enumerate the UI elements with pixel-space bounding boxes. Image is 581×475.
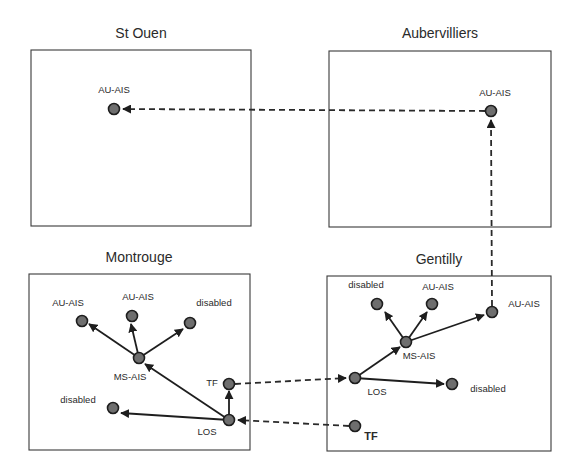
edge-mo-los-ms-ais — [145, 364, 229, 420]
network-diagram: St Ouen AU-AIS Aubervilliers AU-AIS Mont… — [0, 0, 581, 475]
edge-ge-ms-au-ais-2 — [406, 315, 484, 342]
node-ge-ms-ais[interactable] — [401, 337, 412, 348]
edge-ge-au-ais-to-au-au-ais — [491, 120, 492, 306]
edge-ge-los-ms-ais — [355, 347, 400, 378]
inter-site-links — [123, 109, 492, 426]
node-mo-disabled-1[interactable] — [185, 318, 196, 329]
site-box-st-ouen — [31, 50, 251, 226]
site-title-montrouge: Montrouge — [106, 249, 173, 265]
node-label-mo-ms-ais: MS-AIS — [114, 371, 147, 382]
node-label-ge-disabled-1: disabled — [348, 279, 383, 290]
node-ge-au-ais-2[interactable] — [487, 307, 498, 318]
node-so-au-ais[interactable] — [109, 104, 120, 115]
node-label-so-au-ais: AU-AIS — [98, 84, 130, 95]
node-au-au-ais[interactable] — [486, 106, 497, 117]
edge-au-au-ais-to-so-au-ais — [123, 109, 485, 111]
edge-mo-ms-disabled — [139, 329, 183, 358]
site-title-st-ouen: St Ouen — [115, 25, 166, 41]
node-ge-tf[interactable] — [350, 421, 361, 432]
node-mo-au-ais-2[interactable] — [127, 311, 138, 322]
node-ge-disabled-2[interactable] — [447, 379, 458, 390]
node-label-ge-los: LOS — [367, 386, 386, 397]
edge-ge-tf-to-mo-los — [238, 420, 349, 426]
site-title-gentilly: Gentilly — [416, 251, 463, 267]
site-st-ouen: St Ouen AU-AIS — [31, 25, 251, 226]
node-ge-los[interactable] — [350, 373, 361, 384]
node-label-au-au-ais: AU-AIS — [479, 87, 511, 98]
node-label-mo-au-ais-1: AU-AIS — [52, 297, 84, 308]
node-label-mo-tf: TF — [206, 377, 218, 388]
node-label-ge-au-ais-1: AU-AIS — [422, 281, 454, 292]
edge-ge-los-disabled — [355, 378, 444, 384]
node-label-mo-disabled-1: disabled — [196, 297, 231, 308]
edge-mo-los-disabled — [121, 413, 229, 420]
node-mo-ms-ais[interactable] — [134, 353, 145, 364]
edge-mo-tf-to-ge-los — [235, 378, 346, 384]
site-title-aubervilliers: Aubervilliers — [402, 25, 478, 41]
node-mo-au-ais-1[interactable] — [77, 316, 88, 327]
node-mo-tf[interactable] — [224, 379, 235, 390]
node-mo-los[interactable] — [224, 415, 235, 426]
site-aubervilliers: Aubervilliers AU-AIS — [329, 25, 551, 227]
node-label-ge-ms-ais: MS-AIS — [403, 350, 436, 361]
site-montrouge: Montrouge AU-AIS AU-AIS disabled MS-AIS … — [29, 249, 250, 450]
node-label-mo-au-ais-2: AU-AIS — [122, 291, 154, 302]
node-label-mo-disabled-2: disabled — [60, 394, 95, 405]
node-label-mo-los: LOS — [197, 426, 216, 437]
node-ge-disabled-1[interactable] — [372, 299, 383, 310]
node-mo-disabled-2[interactable] — [108, 403, 119, 414]
node-label-ge-tf: TF — [364, 430, 378, 442]
node-ge-au-ais-1[interactable] — [427, 299, 438, 310]
site-gentilly: Gentilly disabled AU-AIS AU-AIS MS-AIS L… — [327, 251, 551, 451]
site-box-aubervilliers — [329, 51, 551, 227]
node-label-ge-au-ais-2: AU-AIS — [508, 298, 540, 309]
node-label-ge-disabled-2: disabled — [470, 383, 505, 394]
